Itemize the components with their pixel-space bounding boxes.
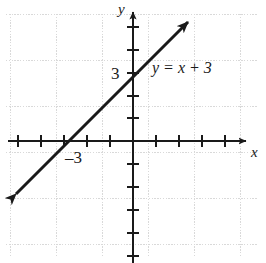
equation-label: y = x + 3 (152, 60, 212, 76)
x-intercept-tick-label: –3 (65, 149, 82, 166)
graph-figure: y x 3 –3 y = x + 3 (0, 0, 266, 263)
x-axis-label: x (251, 145, 258, 160)
y-axis-label: y (118, 2, 125, 17)
coordinate-plane-svg (0, 0, 266, 263)
y-intercept-tick-label: 3 (111, 65, 120, 82)
